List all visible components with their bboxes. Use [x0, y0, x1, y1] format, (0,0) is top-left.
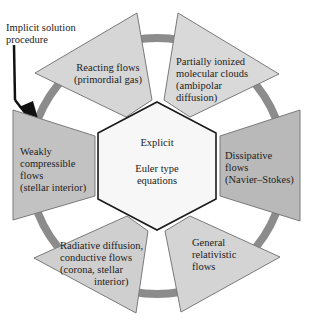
annotation-line: Implicit solution	[6, 22, 76, 34]
annotation-label: Implicit solution procedure	[6, 22, 76, 46]
label-weakly-compressible: Weakly compressible flows (stellar inter…	[20, 146, 86, 194]
label-line: Weakly	[20, 146, 86, 158]
center-subtitle-line: Euler type	[117, 163, 197, 175]
label-reacting-flows: Reacting flows (primordial gas)	[58, 62, 158, 86]
label-line: flows	[192, 261, 236, 273]
label-line: Reacting flows	[58, 62, 158, 74]
label-line: Dissipative	[225, 150, 294, 162]
label-line: Radiative diffusion,	[60, 240, 143, 252]
label-radiative-diffusion: Radiative diffusion, conductive flows (c…	[60, 240, 143, 288]
label-line: General	[192, 237, 236, 249]
label-line: compressible	[20, 158, 86, 170]
label-dissipative-flows: Dissipative flows (Navier–Stokes)	[225, 150, 294, 186]
label-line: relativistic	[192, 249, 236, 261]
label-line: (stellar interior)	[20, 182, 86, 194]
center-subtitle-line: equations	[117, 175, 197, 187]
label-line: molecular clouds	[176, 68, 248, 80]
label-line: Partially ionized	[176, 56, 248, 68]
annotation-line: procedure	[6, 34, 76, 46]
label-line: flows	[20, 170, 86, 182]
label-line: flows	[225, 162, 294, 174]
center-title: Explicit	[117, 137, 197, 149]
label-partially-ionized: Partially ionized molecular clouds (ambi…	[176, 56, 248, 104]
label-line: (Navier–Stokes)	[225, 174, 294, 186]
label-line: (primordial gas)	[58, 74, 158, 86]
label-line: (ambipolar	[176, 80, 248, 92]
label-line: conductive flows	[60, 252, 143, 264]
label-line: interior)	[60, 276, 143, 288]
label-general-relativistic: General relativistic flows	[192, 237, 236, 273]
center-label: Explicit Euler type equations	[117, 137, 197, 187]
label-line: diffusion)	[176, 92, 248, 104]
label-line: (corona, stellar	[60, 264, 143, 276]
